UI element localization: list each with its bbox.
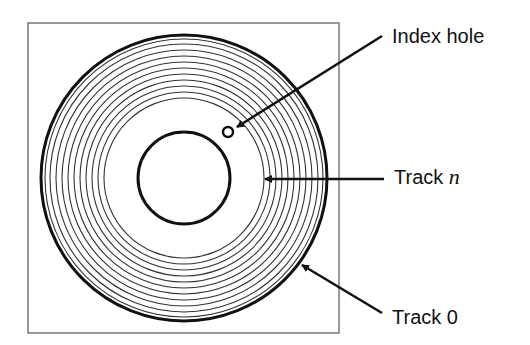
track-ring	[86, 80, 282, 276]
index-hole-text: Index hole	[392, 25, 484, 47]
track-ring	[98, 92, 270, 264]
center-hub	[138, 132, 230, 224]
index-hole-icon	[223, 127, 233, 137]
track-n-text: Track	[394, 166, 449, 188]
track-0-label: Track 0	[392, 307, 458, 327]
track-ring	[80, 74, 288, 282]
track-0-arrow	[302, 265, 382, 313]
index-hole-label: Index hole	[392, 26, 484, 46]
track-ring	[92, 86, 276, 270]
track-ring	[74, 68, 294, 288]
floppy-disk-diagram: Index hole Track n Track 0	[0, 0, 530, 345]
track-n-variable: n	[449, 164, 460, 189]
track-0-text: Track 0	[392, 306, 458, 328]
track-n-label: Track n	[394, 166, 460, 188]
track-ring	[104, 98, 264, 258]
